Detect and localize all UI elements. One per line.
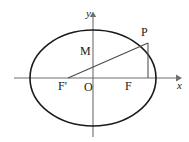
point-label-m: M: [80, 45, 91, 57]
y-axis-label: y: [86, 8, 91, 19]
origin-label: O: [84, 81, 93, 93]
x-axis-label: x: [177, 80, 182, 91]
point-label-f-prime: F': [58, 80, 67, 92]
point-label-f: F: [125, 80, 132, 92]
geometry-figure: y x P M F F' O: [0, 0, 189, 142]
point-label-p: P: [141, 26, 148, 38]
geometry-canvas: [0, 0, 189, 142]
